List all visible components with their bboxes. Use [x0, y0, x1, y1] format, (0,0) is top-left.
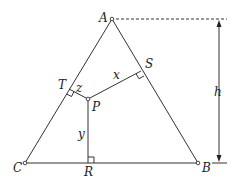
label-x: x: [113, 68, 120, 82]
side-ac: [25, 19, 112, 163]
label-c: C: [13, 161, 22, 175]
label-y: y: [77, 127, 85, 141]
arrowhead-up-icon: [217, 20, 222, 27]
label-r: R: [83, 165, 93, 179]
label-s: S: [145, 57, 153, 71]
point-p: [86, 97, 90, 101]
triangle-diagram: A B C P T S R z x y h: [0, 0, 239, 181]
side-ab: [112, 19, 198, 163]
label-b: B: [201, 161, 211, 175]
label-h: h: [214, 85, 222, 99]
label-t: T: [58, 78, 67, 92]
right-angle-marker-s: [136, 74, 144, 79]
point-b: [196, 161, 200, 165]
right-angle-marker-r: [88, 157, 94, 163]
point-c: [23, 161, 27, 165]
label-a: A: [98, 11, 108, 25]
arrowhead-down-icon: [217, 155, 222, 162]
point-a: [110, 17, 114, 21]
label-p: P: [91, 100, 101, 114]
label-z: z: [75, 81, 83, 95]
